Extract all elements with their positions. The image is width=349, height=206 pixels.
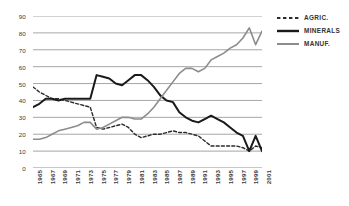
legend-line-swatch (277, 40, 299, 48)
y-axis-tick-label: 70 (19, 46, 26, 53)
x-axis-tick-label: 1995 (227, 170, 234, 184)
x-axis: 1965196719691971197319751977197919811983… (33, 170, 262, 204)
legend: AGRIC.MINERALSMANUF. (277, 12, 347, 51)
legend-line-swatch (277, 27, 299, 35)
x-axis-tick-label: 1991 (201, 170, 208, 184)
y-axis-tick-label: 50 (19, 80, 26, 87)
y-axis-tick-label: 30 (19, 114, 26, 121)
legend-line-swatch (277, 14, 299, 22)
x-axis-tick-label: 1969 (61, 170, 68, 184)
y-axis: 9080706050403020100 (0, 16, 30, 168)
y-axis-tick-label: 20 (19, 131, 26, 138)
legend-item-label: MINERALS (304, 27, 340, 34)
x-axis-tick-label: 1985 (163, 170, 170, 184)
y-axis-tick-label: 10 (19, 148, 26, 155)
y-axis-tick-label: 90 (19, 13, 26, 20)
y-axis-tick-label: 60 (19, 63, 26, 70)
legend-item-minerals[interactable]: MINERALS (277, 25, 347, 36)
x-axis-tick-label: 1983 (151, 170, 158, 184)
series-line-agric (33, 87, 262, 151)
legend-item-label: AGRIC. (304, 14, 328, 21)
x-axis-tick-label: 1981 (138, 170, 145, 184)
legend-item-manuf[interactable]: MANUF. (277, 38, 347, 49)
x-axis-tick-label: 1965 (36, 170, 43, 184)
plot-area (33, 16, 262, 168)
plot-svg (33, 16, 262, 168)
x-axis-tick-label: 1987 (176, 170, 183, 184)
legend-item-agric[interactable]: AGRIC. (277, 12, 347, 23)
y-axis-tick-label: 80 (19, 29, 26, 36)
x-axis-tick-label: 1999 (252, 170, 259, 184)
x-axis-tick-label: 1971 (74, 170, 81, 184)
x-axis-tick-label: 1979 (125, 170, 132, 184)
x-axis-tick-label: 1967 (49, 170, 56, 184)
x-axis-tick-label: 1977 (112, 170, 119, 184)
x-axis-tick-label: 1973 (87, 170, 94, 184)
x-axis-tick-label: 1993 (214, 170, 221, 184)
line-chart: 9080706050403020100 19651967196919711973… (0, 0, 349, 206)
x-axis-tick-label: 1997 (240, 170, 247, 184)
y-axis-tick-label: 0 (22, 165, 26, 172)
y-axis-tick-label: 40 (19, 97, 26, 104)
x-axis-tick-label: 2001 (265, 170, 272, 184)
legend-item-label: MANUF. (304, 40, 330, 47)
x-axis-tick-label: 1989 (189, 170, 196, 184)
x-axis-tick-label: 1975 (100, 170, 107, 184)
